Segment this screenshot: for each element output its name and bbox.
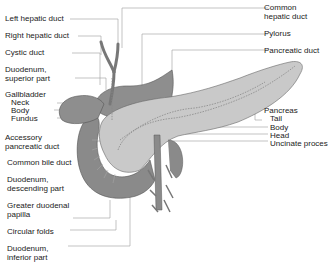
label-duodenum-inferior-2: inferior part xyxy=(7,253,47,262)
label-cystic-duct: Cystic duct xyxy=(5,48,44,57)
label-duodenum-superior-2: superior part xyxy=(5,74,50,83)
label-left-hepatic-duct: Left hepatic duct xyxy=(5,14,64,23)
label-pylorus: Pylorus xyxy=(264,29,291,38)
label-uncinate-process: Uncinate proces xyxy=(270,139,328,148)
label-pancreatic-duct: Pancreatic duct xyxy=(264,46,319,55)
label-accessory-duct-1: Accessory xyxy=(5,133,42,142)
label-greater-papilla-1: Greater duodenal xyxy=(7,201,69,210)
label-duodenum-inferior-1: Duodenum, xyxy=(7,244,48,253)
label-pancreas-tail: Tail xyxy=(270,114,282,123)
label-right-hepatic-duct: Right hepatic duct xyxy=(5,31,69,40)
label-duodenum-superior-1: Duodenum, xyxy=(5,65,46,74)
label-circular-folds: Circular folds xyxy=(7,227,54,236)
label-accessory-duct-2: pancreatic duct xyxy=(5,142,59,151)
label-common-hepatic-1: Common xyxy=(264,3,296,12)
label-gallbladder-fundus: Fundus xyxy=(11,114,38,123)
label-duodenum-descending-1: Duodenum, xyxy=(7,175,48,184)
label-common-hepatic-2: hepatic duct xyxy=(264,12,307,21)
label-greater-papilla-2: papilla xyxy=(7,210,30,219)
label-common-bile-duct: Common bile duct xyxy=(7,158,71,167)
label-duodenum-descending-2: descending part xyxy=(7,184,64,193)
